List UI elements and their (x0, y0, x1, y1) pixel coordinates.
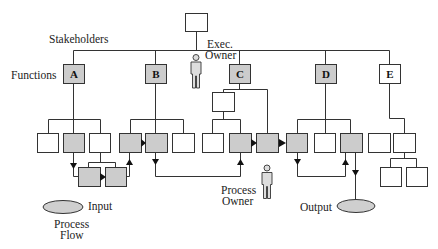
exec-owner-person-icon (191, 55, 201, 89)
input-label: Input (88, 200, 112, 212)
functions-label: Functions (11, 69, 56, 81)
function-a-label: A (70, 68, 78, 80)
exec-box (186, 14, 208, 32)
output-label: Output (300, 201, 332, 213)
output-ellipse (337, 200, 375, 213)
function-e-label: E (386, 68, 393, 80)
stakeholders-label: Stakeholders (49, 33, 108, 45)
process-flow-label-line2: Flow (60, 229, 84, 241)
function-d-label: D (322, 68, 330, 80)
process-owner-label-line2: Owner (222, 195, 253, 207)
function-c-label: C (236, 68, 244, 80)
function-b-label: B (152, 68, 160, 80)
input-ellipse (43, 201, 83, 214)
exec-owner-label-line2: Owner (205, 49, 236, 61)
process-owner-person-icon (262, 165, 272, 199)
